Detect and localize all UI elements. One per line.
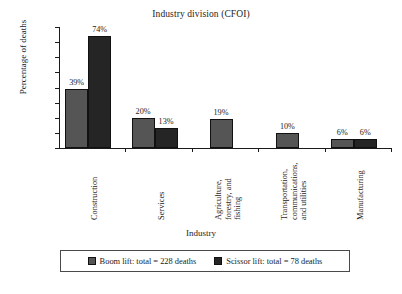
category-label-line: Agriculture,: [214, 178, 224, 220]
category-label-line: Manufacturing: [356, 170, 366, 220]
bar-value-label: 13%: [151, 117, 182, 126]
bar-value-label: 19%: [206, 108, 237, 117]
bar-boom-lift: [210, 119, 233, 148]
bar-value-label: 6%: [350, 128, 381, 137]
category-label-line: communications,: [290, 163, 300, 220]
x-axis-category-label: Construction: [90, 177, 100, 220]
bar-boom-lift: [65, 89, 88, 148]
category-label-line: and utilities: [299, 163, 309, 220]
bar-value-label: 74%: [84, 25, 115, 34]
chart-title: Industry division (CFOI): [0, 9, 402, 19]
x-axis-category-label: Manufacturing: [356, 170, 366, 220]
bar-scissor-lift: [354, 139, 377, 148]
bar-boom-lift: [331, 139, 354, 148]
x-axis-tick-mark: [258, 148, 259, 152]
bar-scissor-lift: [88, 36, 111, 148]
legend-label: Boom lift: total = 228 deaths: [100, 257, 197, 266]
category-label-line: forestry, and: [223, 178, 233, 220]
x-axis-tick-mark: [192, 148, 193, 152]
bar-scissor-lift: [155, 128, 178, 148]
x-axis-category-label: Services: [157, 192, 167, 220]
legend-entry: Boom lift: total = 228 deaths: [88, 257, 197, 266]
x-axis-category-label: Transportation,communications,and utilit…: [280, 163, 309, 220]
bar-boom-lift: [276, 133, 299, 148]
x-axis-tick-mark: [325, 148, 326, 152]
chart-figure: Industry division (CFOI) Percentage of d…: [0, 0, 402, 294]
x-axis-line: [59, 148, 392, 149]
bar-value-label: 20%: [128, 107, 159, 116]
x-axis-category-label: Agriculture,forestry, andfishing: [214, 178, 243, 220]
category-label-line: fishing: [233, 178, 243, 220]
x-axis-label: Industry: [0, 228, 402, 238]
plot-area: 39%74%20%13%19%10%6%6%: [59, 27, 391, 148]
x-axis-tick-mark: [391, 148, 392, 152]
category-label-line: Construction: [90, 177, 100, 220]
y-axis-label: Percentage of deaths: [18, 0, 28, 121]
legend-swatch-boom: [88, 257, 96, 265]
x-axis-tick-mark: [125, 148, 126, 152]
legend-entry: Scissor lift: total = 78 deaths: [214, 257, 322, 266]
legend-swatch-scissor: [214, 257, 222, 265]
y-axis-tick-mark: [55, 148, 59, 149]
category-label-line: Transportation,: [280, 163, 290, 220]
chart-legend: Boom lift: total = 228 deathsScissor lif…: [60, 250, 350, 272]
bar-value-label: 10%: [272, 122, 303, 131]
category-label-line: Services: [157, 192, 167, 220]
legend-label: Scissor lift: total = 78 deaths: [226, 257, 322, 266]
